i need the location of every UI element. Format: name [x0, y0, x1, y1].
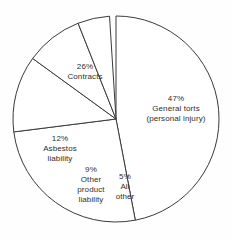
pie-label-general-torts-line2: (personal injury)	[128, 114, 224, 124]
pie-label-contracts-percent: 26%	[42, 62, 128, 72]
pie-label-all-other-percent: 5%	[105, 172, 145, 182]
pie-label-all-other-line2: other	[105, 192, 145, 202]
pie-label-asbestos-liability: 12% Asbestos liability	[19, 134, 101, 164]
pie-label-general-torts: 47% General torts (personal injury)	[128, 94, 224, 124]
pie-label-contracts-line1: Contracts	[42, 72, 128, 82]
pie-label-asbestos-line1: Asbestos	[19, 144, 101, 154]
pie-label-general-torts-line1: General torts	[128, 104, 224, 114]
pie-label-contracts: 26% Contracts	[42, 62, 128, 82]
pie-chart-figure: 47% General torts (personal injury) 26% …	[0, 0, 232, 239]
pie-label-all-other-line1: All	[105, 182, 145, 192]
pie-label-all-other: 5% All other	[105, 172, 145, 202]
pie-label-general-torts-percent: 47%	[128, 94, 224, 104]
pie-label-asbestos-line2: liability	[19, 154, 101, 164]
pie-label-asbestos-percent: 12%	[19, 134, 101, 144]
